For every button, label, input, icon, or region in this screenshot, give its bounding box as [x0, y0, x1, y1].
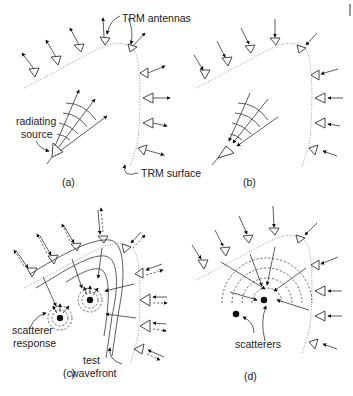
label-wavefront: wavefront: [70, 367, 117, 379]
antenna-icon: [239, 216, 253, 243]
caption-a: (a): [62, 176, 75, 188]
antenna-icon: [62, 224, 81, 251]
antenna-icon: [315, 286, 342, 296]
antenna-icon: [100, 18, 110, 45]
antenna-icon: [140, 66, 165, 78]
panel-d: scatterers (d): [192, 206, 342, 382]
caption-b: (b): [243, 176, 256, 188]
antenna-icon: [135, 264, 163, 278]
scatterer-main: [261, 297, 268, 304]
label-response: response: [13, 337, 56, 349]
label-trm-antennas: TRM antennas: [122, 12, 191, 24]
antenna-icon: [134, 344, 164, 360]
antenna-icon: [140, 320, 166, 332]
antenna-icon: [98, 208, 108, 243]
antenna-icon: [215, 230, 230, 256]
antenna-icon: [241, 28, 255, 53]
antenna-icon: [192, 245, 208, 269]
scatterer-secondary: [233, 311, 240, 318]
label-scatterer: scatterer: [12, 324, 53, 336]
antenna-icon: [22, 53, 39, 77]
label-source: source: [21, 128, 53, 140]
antenna-icon: [217, 41, 232, 66]
antenna-icon: [311, 69, 338, 80]
trm-diagram: TRM antennas radiating source TRM surfac…: [0, 0, 353, 396]
antenna-icon: [315, 93, 343, 103]
antenna-icon: [297, 33, 317, 53]
antenna-icon: [309, 339, 337, 349]
antenna-icon: [269, 206, 279, 235]
antenna-icon: [70, 28, 84, 52]
panel-b: (b): [194, 19, 343, 188]
label-test: test: [83, 354, 100, 366]
focusing-source: [212, 93, 278, 165]
radiating-source: [47, 90, 107, 164]
antenna-icon: [311, 257, 338, 270]
antenna-icon: [122, 232, 145, 253]
scatterer-2: [78, 286, 102, 312]
antenna-icon: [194, 55, 210, 79]
panel-a: TRM antennas radiating source TRM surfac…: [16, 12, 201, 188]
panel-c: scatterer response test wavefront (c): [12, 208, 167, 379]
antenna-icon: [143, 118, 167, 128]
trm-surface: [196, 44, 312, 166]
antenna-icon: [270, 19, 280, 45]
antenna-icon: [140, 294, 167, 306]
label-trm-surface: TRM surface: [141, 167, 201, 179]
antenna-icon: [14, 250, 37, 277]
antenna-icon: [143, 93, 170, 103]
trm-surface: [196, 236, 312, 354]
antenna-icon: [296, 223, 317, 243]
antenna-icon: [128, 33, 145, 52]
caption-d: (d): [244, 370, 257, 382]
caption-c: (c): [63, 367, 75, 379]
antenna-icon: [138, 145, 164, 155]
antenna-icon: [315, 118, 340, 128]
label-radiating: radiating: [16, 115, 56, 127]
antenna-icon: [315, 311, 342, 321]
antenna-icon: [309, 145, 337, 156]
antenna-icon: [46, 40, 61, 65]
label-scatterers: scatterers: [235, 338, 281, 350]
